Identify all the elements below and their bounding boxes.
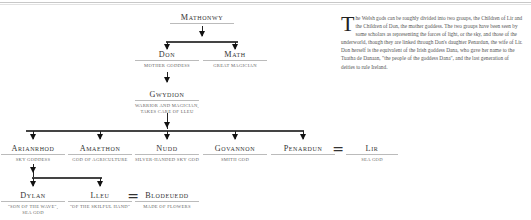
- arrow-down-icon: [164, 134, 170, 140]
- header-rule-secondary: [0, 4, 531, 5]
- node-gwydion: Gwydion Warrior and magician, takes care…: [135, 90, 199, 115]
- sibling-bar: [166, 41, 238, 43]
- node-name: Dylan: [1, 191, 65, 202]
- node-dylan: Dylan "Son of the wave", sea god: [1, 191, 65, 216]
- node-description: Sky goddess: [1, 157, 65, 163]
- sibling-bar: [26, 130, 304, 132]
- node-description: sea god: [1, 210, 65, 216]
- node-name: Blodeuedd: [135, 191, 199, 202]
- node-name: Penardun: [271, 144, 335, 155]
- node-nudd: Nudd Silver-handed sky god: [135, 144, 199, 163]
- node-description: Silver-handed sky god: [135, 157, 199, 163]
- node-name: Math: [203, 50, 267, 61]
- arrow-down-icon: [164, 77, 170, 83]
- arrow-down-icon: [30, 181, 36, 187]
- node-name: Gwydion: [135, 90, 199, 101]
- node-lir: Lir Sea god: [346, 144, 398, 163]
- drop-cap: T: [341, 15, 354, 32]
- node-description: Great magician: [203, 63, 267, 69]
- node-name: Mathonwy: [170, 13, 234, 24]
- node-blodeuedd: Blodeuedd Made of flowers: [135, 191, 199, 210]
- node-name: Govannon: [203, 144, 267, 155]
- node-amaethon: Amaethon God of agriculture: [68, 144, 132, 163]
- node-arianrhod: Arianrhod Sky goddess: [1, 144, 65, 163]
- node-name: Nudd: [135, 144, 199, 155]
- node-name: Don: [135, 50, 199, 61]
- node-description: "Son of the wave",: [1, 204, 65, 210]
- arrow-down-icon: [300, 134, 306, 140]
- node-math: Math Great magician: [203, 50, 267, 69]
- arrow-down-icon: [97, 134, 103, 140]
- node-description: God of agriculture: [68, 157, 132, 163]
- node-description: Sea god: [346, 157, 398, 163]
- node-description: Warrior and magician,: [135, 103, 199, 109]
- node-don: Don Mother goddess: [135, 50, 199, 69]
- arrow-down-icon: [199, 31, 205, 37]
- node-name: Arianrhod: [1, 144, 65, 155]
- node-govannon: Govannon Smith god: [203, 144, 267, 163]
- node-lleu: Lleu "Of the skilful hand": [68, 191, 132, 210]
- marriage-symbol: =: [332, 141, 344, 157]
- arrow-down-icon: [97, 181, 103, 187]
- node-description: Mother goddess: [135, 63, 199, 69]
- node-description: Made of flowers: [135, 204, 199, 210]
- arrow-down-icon: [30, 167, 36, 173]
- node-name: Lir: [346, 144, 398, 155]
- node-mathonwy: Mathonwy: [170, 13, 234, 24]
- intro-paragraph: The Welsh gods can be roughly divided in…: [341, 14, 523, 71]
- paragraph-body: he Welsh gods can be roughly divided int…: [341, 15, 522, 70]
- arrow-down-icon: [30, 134, 36, 140]
- node-penardun: Penardun: [271, 144, 335, 155]
- header-rule: [0, 2, 531, 3]
- arrow-down-icon: [232, 134, 238, 140]
- node-name: Amaethon: [68, 144, 132, 155]
- node-name: Lleu: [68, 191, 132, 202]
- arrow-down-icon: [164, 122, 170, 128]
- node-description: "Of the skilful hand": [68, 204, 132, 210]
- node-description: Smith god: [203, 157, 267, 163]
- sibling-bar: [32, 177, 102, 179]
